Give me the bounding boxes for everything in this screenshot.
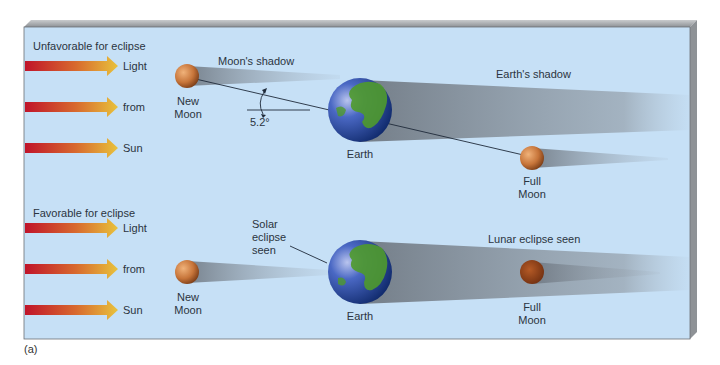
sun-label-bottom: Sun <box>123 304 143 317</box>
earth-top <box>328 78 392 142</box>
light-label: Light <box>123 60 147 73</box>
moon-shadow-label: Moon's shadow <box>218 55 294 68</box>
panel-title-favorable: Favorable for eclipse <box>33 207 135 220</box>
figure-caption: (a) <box>24 343 37 355</box>
new-moon-label-bottom: New Moon <box>174 291 202 317</box>
earth-label-bottom: Earth <box>347 310 373 323</box>
frame-side-edge <box>690 20 697 339</box>
panel-title-unfavorable: Unfavorable for eclipse <box>33 40 146 53</box>
earth-bottom <box>328 240 392 304</box>
solar-eclipse-label: Solar eclipse seen <box>252 218 286 257</box>
full-moon-bottom <box>520 260 544 284</box>
angle-label: 5.2° <box>250 116 270 129</box>
sun-label: Sun <box>123 142 143 155</box>
full-moon-label-bottom: Full Moon <box>518 301 546 327</box>
new-moon-label-top: New Moon <box>174 95 202 121</box>
full-moon-top <box>520 146 544 170</box>
new-moon-bottom <box>175 260 199 284</box>
eclipse-diagram: Unfavorable for eclipse Light from Sun M… <box>0 0 720 365</box>
frame-top-edge <box>24 20 697 27</box>
lunar-eclipse-label: Lunar eclipse seen <box>488 233 580 246</box>
from-label: from <box>123 101 145 114</box>
earth-shadow-label: Earth's shadow <box>496 68 571 81</box>
earth-label-top: Earth <box>347 148 373 161</box>
full-moon-label-top: Full Moon <box>518 175 546 201</box>
new-moon-top <box>175 64 199 88</box>
from-label-bottom: from <box>123 263 145 276</box>
light-label-bottom: Light <box>123 222 147 235</box>
